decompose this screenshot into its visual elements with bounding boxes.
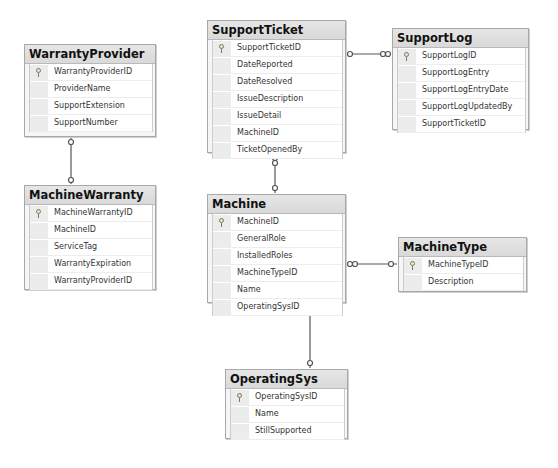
- column-row[interactable]: MachineID: [30, 222, 152, 239]
- column-name: WarrantyProviderID: [54, 273, 132, 289]
- column-row[interactable]: GeneralRole: [213, 231, 342, 248]
- column-row[interactable]: MachineTypeID: [404, 257, 523, 274]
- column-row[interactable]: SupportLogEntry: [398, 65, 525, 82]
- table-supportticket[interactable]: SupportTicket SupportTicketID DateReport…: [207, 20, 346, 153]
- column-list: WarrantyProviderID ProviderName SupportE…: [29, 64, 153, 132]
- column-name: SupportLogUpdatedBy: [422, 99, 512, 115]
- column-name: IssueDetail: [237, 108, 281, 124]
- column-name: SupportLogID: [422, 48, 476, 64]
- column-name: SupportLogEntryDate: [422, 82, 508, 98]
- column-name: InstalledRoles: [237, 248, 293, 264]
- column-row[interactable]: OperatingSysID: [231, 389, 344, 406]
- column-name: Name: [255, 406, 279, 422]
- table-title: OperatingSys: [226, 370, 347, 389]
- column-row[interactable]: IssueDescription: [213, 91, 342, 108]
- column-row[interactable]: DateResolved: [213, 74, 342, 91]
- column-row[interactable]: InstalledRoles: [213, 248, 342, 265]
- column-row[interactable]: SupportLogEntryDate: [398, 82, 525, 99]
- table-operatingsys[interactable]: OperatingSys OperatingSysID Name StillSu…: [225, 369, 348, 439]
- primary-key-icon: [36, 209, 42, 218]
- column-name: GeneralRole: [237, 231, 286, 247]
- column-row[interactable]: MachineID: [213, 125, 342, 142]
- column-row[interactable]: SupportLogUpdatedBy: [398, 99, 525, 116]
- column-row[interactable]: TicketOpenedBy: [213, 142, 342, 159]
- column-name: DateReported: [237, 57, 293, 73]
- column-name: SupportTicketID: [237, 40, 301, 56]
- column-row[interactable]: WarrantyExpiration: [30, 256, 152, 273]
- column-name: MachineTypeID: [237, 265, 297, 281]
- column-name: ServiceTag: [54, 239, 97, 255]
- column-row[interactable]: MachineWarrantyID: [30, 205, 152, 222]
- column-name: DateResolved: [237, 74, 292, 90]
- column-row[interactable]: ServiceTag: [30, 239, 152, 256]
- table-title: SupportLog: [393, 29, 528, 48]
- column-row[interactable]: SupportTicketID: [398, 116, 525, 133]
- column-name: ProviderName: [54, 81, 111, 97]
- table-machinetype[interactable]: MachineType MachineTypeID Description: [398, 237, 527, 292]
- column-name: MachineID: [237, 214, 279, 230]
- column-name: Description: [428, 274, 474, 290]
- table-title: WarrantyProvider: [25, 45, 155, 64]
- column-row[interactable]: SupportNumber: [30, 115, 152, 132]
- table-machinewarranty[interactable]: MachineWarranty MachineWarrantyID Machin…: [24, 185, 156, 290]
- primary-key-icon: [219, 218, 225, 227]
- column-name: WarrantyExpiration: [54, 256, 131, 272]
- column-list: SupportTicketID DateReported DateResolve…: [212, 40, 343, 159]
- column-name: MachineTypeID: [428, 257, 488, 273]
- column-name: SupportNumber: [54, 115, 118, 131]
- column-row[interactable]: StillSupported: [231, 423, 344, 440]
- primary-key-icon: [36, 68, 42, 77]
- primary-key-icon: [237, 393, 243, 402]
- column-name: OperatingSysID: [255, 389, 318, 405]
- column-row[interactable]: WarrantyProviderID: [30, 273, 152, 290]
- table-title: MachineType: [399, 238, 526, 257]
- column-list: MachineTypeID Description: [403, 257, 524, 291]
- column-name: SupportExtension: [54, 98, 125, 114]
- column-row[interactable]: IssueDetail: [213, 108, 342, 125]
- table-title: MachineWarranty: [25, 186, 155, 205]
- column-row[interactable]: Name: [231, 406, 344, 423]
- column-row[interactable]: DateReported: [213, 57, 342, 74]
- column-row[interactable]: SupportLogID: [398, 48, 525, 65]
- table-supportlog[interactable]: SupportLog SupportLogID SupportLogEntry …: [392, 28, 529, 130]
- primary-key-icon: [404, 52, 410, 61]
- column-name: SupportLogEntry: [422, 65, 489, 81]
- column-list: MachineID GeneralRole InstalledRoles Mac…: [212, 214, 343, 316]
- column-name: OperatingSysID: [237, 299, 300, 315]
- column-name: MachineID: [237, 125, 279, 141]
- column-list: MachineWarrantyID MachineID ServiceTag W…: [29, 205, 153, 290]
- table-warrantyprovider[interactable]: WarrantyProvider WarrantyProviderID Prov…: [24, 44, 156, 137]
- column-name: SupportTicketID: [422, 116, 486, 132]
- column-row[interactable]: WarrantyProviderID: [30, 64, 152, 81]
- column-list: SupportLogID SupportLogEntry SupportLogE…: [397, 48, 526, 133]
- column-name: MachineWarrantyID: [54, 205, 133, 221]
- table-machine[interactable]: Machine MachineID GeneralRole InstalledR…: [207, 194, 346, 303]
- column-name: Name: [237, 282, 261, 298]
- column-name: WarrantyProviderID: [54, 64, 132, 80]
- column-row[interactable]: SupportExtension: [30, 98, 152, 115]
- column-row[interactable]: MachineID: [213, 214, 342, 231]
- primary-key-icon: [410, 261, 416, 270]
- column-row[interactable]: ProviderName: [30, 81, 152, 98]
- primary-key-icon: [219, 44, 225, 53]
- column-row[interactable]: OperatingSysID: [213, 299, 342, 316]
- table-title: SupportTicket: [208, 21, 345, 40]
- column-name: StillSupported: [255, 423, 312, 439]
- column-name: MachineID: [54, 222, 96, 238]
- column-row[interactable]: MachineTypeID: [213, 265, 342, 282]
- column-row[interactable]: SupportTicketID: [213, 40, 342, 57]
- column-list: OperatingSysID Name StillSupported: [230, 389, 345, 440]
- table-title: Machine: [208, 195, 345, 214]
- column-name: TicketOpenedBy: [237, 142, 302, 158]
- column-row[interactable]: Name: [213, 282, 342, 299]
- column-name: IssueDescription: [237, 91, 303, 107]
- column-row[interactable]: Description: [404, 274, 523, 291]
